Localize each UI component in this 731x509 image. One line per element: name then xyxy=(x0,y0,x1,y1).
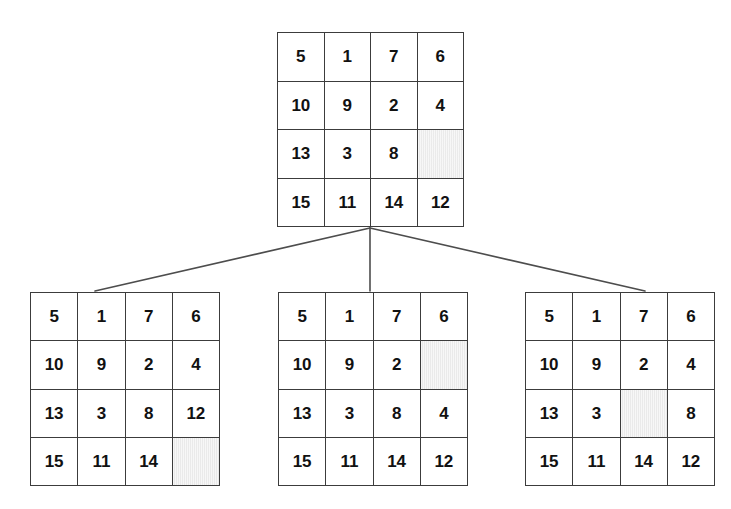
puzzle-grid-child-middle: 517610921338415111412 xyxy=(278,292,468,486)
puzzle-tile: 4 xyxy=(418,82,464,130)
puzzle-tile: 9 xyxy=(325,82,371,130)
puzzle-tile: 7 xyxy=(621,293,667,340)
puzzle-tile: 6 xyxy=(418,33,464,81)
puzzle-tile: 10 xyxy=(279,341,325,388)
puzzle-tile: 9 xyxy=(326,341,372,388)
puzzle-tile: 15 xyxy=(278,179,324,227)
puzzle-tile: 7 xyxy=(371,33,417,81)
puzzle-tile: 6 xyxy=(421,293,467,340)
puzzle-tile: 9 xyxy=(573,341,619,388)
puzzle-tile: 5 xyxy=(278,33,324,81)
puzzle-tile: 14 xyxy=(126,438,172,485)
puzzle-tile: 1 xyxy=(573,293,619,340)
puzzle-tile: 15 xyxy=(526,438,572,485)
tree-edge-root-to-child-0 xyxy=(95,228,370,291)
puzzle-tile: 1 xyxy=(326,293,372,340)
puzzle-tile: 11 xyxy=(573,438,619,485)
puzzle-tile: 5 xyxy=(526,293,572,340)
puzzle-tile: 1 xyxy=(325,33,371,81)
puzzle-tile: 5 xyxy=(279,293,325,340)
puzzle-tile: 11 xyxy=(326,438,372,485)
puzzle-tile: 2 xyxy=(621,341,667,388)
puzzle-tile: 9 xyxy=(78,341,124,388)
puzzle-tile: 7 xyxy=(374,293,420,340)
puzzle-tile: 14 xyxy=(371,179,417,227)
puzzle-tile: 13 xyxy=(526,390,572,437)
puzzle-tile: 10 xyxy=(31,341,77,388)
tree-edge-root-to-child-2 xyxy=(370,228,645,291)
puzzle-tile: 15 xyxy=(31,438,77,485)
puzzle-grid-child-left: 517610924133812151114 xyxy=(30,292,220,486)
puzzle-tile: 7 xyxy=(126,293,172,340)
puzzle-tile: 4 xyxy=(668,341,714,388)
puzzle-grid-child-right: 517610924133815111412 xyxy=(525,292,715,486)
puzzle-tile: 5 xyxy=(31,293,77,340)
puzzle-tile: 6 xyxy=(173,293,219,340)
puzzle-tile: 11 xyxy=(78,438,124,485)
puzzle-tile: 12 xyxy=(668,438,714,485)
puzzle-tile: 4 xyxy=(173,341,219,388)
puzzle-tile: 3 xyxy=(326,390,372,437)
puzzle-tile: 2 xyxy=(374,341,420,388)
puzzle-blank-cell xyxy=(421,341,467,388)
puzzle-tile: 13 xyxy=(278,130,324,178)
diagram-canvas: 517610924133815111412 517610924133812151… xyxy=(0,0,731,509)
puzzle-tile: 4 xyxy=(421,390,467,437)
puzzle-tile: 8 xyxy=(371,130,417,178)
puzzle-tile: 14 xyxy=(621,438,667,485)
puzzle-tile: 8 xyxy=(374,390,420,437)
puzzle-tile: 3 xyxy=(78,390,124,437)
puzzle-tile: 12 xyxy=(173,390,219,437)
puzzle-tile: 10 xyxy=(526,341,572,388)
puzzle-tile: 12 xyxy=(418,179,464,227)
puzzle-blank-cell xyxy=(418,130,464,178)
puzzle-tile: 2 xyxy=(126,341,172,388)
puzzle-tile: 8 xyxy=(668,390,714,437)
puzzle-tile: 1 xyxy=(78,293,124,340)
puzzle-tile: 13 xyxy=(279,390,325,437)
puzzle-tile: 12 xyxy=(421,438,467,485)
puzzle-grid-root: 517610924133815111412 xyxy=(277,32,464,227)
puzzle-tile: 13 xyxy=(31,390,77,437)
puzzle-blank-cell xyxy=(621,390,667,437)
puzzle-tile: 2 xyxy=(371,82,417,130)
puzzle-tile: 11 xyxy=(325,179,371,227)
puzzle-tile: 14 xyxy=(374,438,420,485)
puzzle-tile: 8 xyxy=(126,390,172,437)
puzzle-blank-cell xyxy=(173,438,219,485)
puzzle-tile: 6 xyxy=(668,293,714,340)
puzzle-tile: 3 xyxy=(573,390,619,437)
puzzle-tile: 10 xyxy=(278,82,324,130)
puzzle-tile: 3 xyxy=(325,130,371,178)
puzzle-tile: 15 xyxy=(279,438,325,485)
